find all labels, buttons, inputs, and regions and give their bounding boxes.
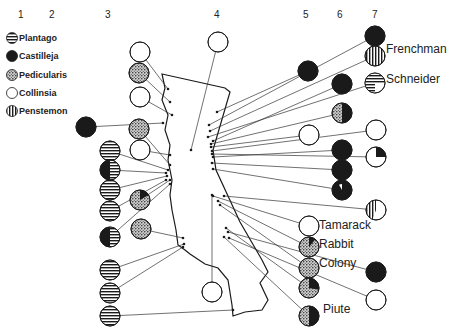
leader-line xyxy=(110,247,183,293)
leader-line xyxy=(213,196,309,226)
site-dot xyxy=(212,168,215,171)
site-label-rabbit: Rabbit xyxy=(319,238,354,251)
site-dot xyxy=(212,195,215,198)
pie-circle-c4-2 xyxy=(202,282,222,302)
site-dot xyxy=(190,149,193,152)
pie-circle-c2-2 xyxy=(100,160,120,180)
plantago-legend-icon xyxy=(7,33,18,44)
pie-circle-c3-2 xyxy=(129,63,149,83)
leader-line xyxy=(191,42,218,150)
site-dot xyxy=(207,136,210,139)
site-dot xyxy=(169,183,172,186)
site-dot xyxy=(216,111,219,114)
site-dot xyxy=(212,140,215,143)
leader-line xyxy=(210,56,375,131)
pie-circle-c7-5 xyxy=(366,147,386,167)
pie-circle-c7-4 xyxy=(366,120,386,140)
site-label-frenchman: Frenchman xyxy=(386,43,447,56)
pie-circle-c7-6 xyxy=(366,200,386,220)
leader-line xyxy=(212,163,342,170)
site-dot xyxy=(162,122,165,125)
column-number: 3 xyxy=(105,9,111,20)
leader-line xyxy=(213,169,342,190)
column-number: 4 xyxy=(214,9,220,20)
legend-label-castilleja: Castilleja xyxy=(19,51,59,61)
site-dot xyxy=(182,246,185,249)
pie-circle-c3-6 xyxy=(130,190,150,210)
pie-circle-c5-3 xyxy=(299,216,319,236)
pie-circle-c6-2 xyxy=(332,103,352,123)
pie-circle-c2-3 xyxy=(100,180,120,200)
site-dot xyxy=(210,143,213,146)
site-dot xyxy=(232,309,235,312)
site-dot xyxy=(183,243,186,246)
site-label-tamarack: Tamarack xyxy=(319,219,371,232)
site-dot xyxy=(165,172,168,175)
pie-circle-c3-3 xyxy=(130,87,150,107)
leader-line xyxy=(224,196,376,210)
pie-circle-c6-7 xyxy=(366,290,386,310)
pie-circle-c2-1 xyxy=(100,141,120,161)
pie-circle-c4-1 xyxy=(208,32,228,52)
pie-circle-c6-4 xyxy=(332,160,352,180)
legend-label-pedicularis: Pedicularis xyxy=(19,70,67,80)
column-number: 5 xyxy=(303,9,309,20)
pie-circle-c5-7 xyxy=(299,306,319,326)
pie-circle-c1-1 xyxy=(76,117,96,137)
legend-label-collinsia: Collinsia xyxy=(19,88,57,98)
site-label-schneider: Schneider xyxy=(386,73,440,86)
site-dot xyxy=(208,124,211,127)
pedicularis-legend-icon xyxy=(7,70,18,81)
pie-circle-c2-8 xyxy=(100,306,120,326)
column-number: 2 xyxy=(49,9,55,20)
pie-circle-c3-5 xyxy=(130,140,150,160)
pie-circle-c5-2 xyxy=(299,125,319,145)
pie-circle-c3-7 xyxy=(131,219,151,239)
pie-circle-c7-2 xyxy=(365,46,385,66)
pie-circle-c3-1 xyxy=(130,42,150,62)
pie-circle-c2-6 xyxy=(100,260,120,280)
pie-circle-c5-4 xyxy=(299,237,319,257)
pie-circle-c5-1 xyxy=(298,61,318,81)
site-dot xyxy=(209,130,212,133)
legend-icons xyxy=(7,33,18,117)
site-dot xyxy=(169,154,172,157)
pie-circle-c5-6 xyxy=(299,278,319,298)
column-number: 6 xyxy=(337,9,343,20)
pie-circle-c6-3 xyxy=(332,140,352,160)
leader-line xyxy=(218,201,309,247)
leader-line xyxy=(224,237,309,316)
leader-line xyxy=(217,71,308,112)
pie-circle-c6-5 xyxy=(332,180,352,200)
site-dot xyxy=(227,231,230,234)
site-dot xyxy=(211,150,214,153)
site-dot xyxy=(219,204,222,207)
state-outline xyxy=(162,74,268,316)
pie-circle-c6-1 xyxy=(332,74,352,94)
pie-circle-c2-4 xyxy=(100,201,120,221)
site-dot xyxy=(171,114,174,117)
legend-label-penstemon: Penstemon xyxy=(19,106,68,116)
leader-line xyxy=(211,113,342,144)
site-dot xyxy=(228,237,231,240)
leader-line xyxy=(220,205,309,268)
pie-circle-c7-1 xyxy=(365,26,385,46)
leader-line xyxy=(110,244,184,270)
column-number: 1 xyxy=(18,9,24,20)
site-dot xyxy=(212,156,215,159)
site-dot xyxy=(165,179,168,182)
site-dot xyxy=(211,153,214,156)
penstemon-legend-icon xyxy=(7,106,18,117)
site-label-colony: Colony xyxy=(319,257,356,270)
site-dot xyxy=(223,195,226,198)
pie-circles xyxy=(76,26,386,326)
site-dot xyxy=(169,101,172,104)
leader-line xyxy=(86,123,163,127)
site-dot xyxy=(182,237,185,240)
site-dot xyxy=(211,162,214,165)
site-label-piute: Piute xyxy=(323,303,350,316)
site-dot xyxy=(210,146,213,149)
leader-lines xyxy=(86,36,376,316)
site-dot xyxy=(169,164,172,167)
column-number: 7 xyxy=(372,9,378,20)
